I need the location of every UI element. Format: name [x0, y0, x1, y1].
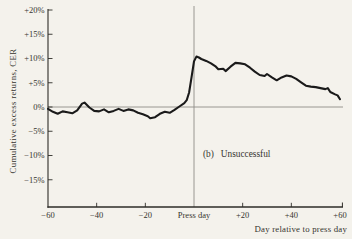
x-tick-label: −60 — [41, 210, 54, 220]
y-tick-label: −5% — [28, 126, 44, 136]
x-axis-title: Day relative to press day — [255, 224, 347, 234]
y-tick-label: +15% — [24, 29, 44, 39]
y-tick-label: +10% — [24, 53, 44, 63]
panel-annotation: (b)Unsuccessful — [203, 149, 270, 159]
x-tick-label: −20 — [139, 210, 152, 220]
x-tick-label: +20 — [236, 210, 249, 220]
x-tick-label: −40 — [90, 210, 103, 220]
y-axis-title: Cumulative excess returns, CER — [8, 49, 18, 174]
x-tick-label: +60 — [333, 210, 346, 220]
chart-canvas: +20%+15%+10%+5%0%−5%−10%−15%−60−40−20Pre… — [0, 0, 352, 239]
cumulative-excess-returns-figure: +20%+15%+10%+5%0%−5%−10%−15%−60−40−20Pre… — [0, 0, 352, 239]
panel-label: (b) — [203, 149, 214, 159]
y-tick-label: +20% — [24, 5, 44, 15]
x-tick-label: +40 — [285, 210, 298, 220]
y-tick-label: −10% — [24, 150, 44, 160]
y-tick-label: +5% — [28, 78, 44, 88]
x-tick-label: Press day — [178, 210, 211, 220]
panel-title: Unsuccessful — [221, 149, 271, 159]
y-tick-label: 0% — [33, 102, 44, 112]
y-tick-label: −15% — [24, 175, 44, 185]
